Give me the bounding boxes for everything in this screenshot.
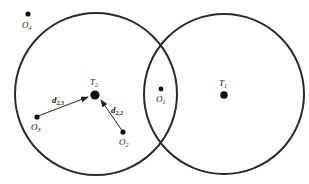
node-dot-t2 xyxy=(90,90,99,99)
node-dot-t1 xyxy=(220,91,228,99)
label-t1: T1 xyxy=(219,78,227,89)
label-o3: O3 xyxy=(31,122,41,133)
label-t2: T2 xyxy=(90,77,98,88)
label-d23: d2,3 xyxy=(52,95,64,106)
node-dot-o2 xyxy=(120,129,125,134)
label-d22: d2,2 xyxy=(111,105,123,116)
node-dot-o3 xyxy=(34,114,39,119)
label-o2: O2 xyxy=(119,137,129,148)
node-dot-o1 xyxy=(159,87,164,92)
node-dot-o4 xyxy=(25,11,30,16)
label-o1: O1 xyxy=(156,94,166,105)
diagram-canvas: O4 T2 O3 O2 O1 T1 d2,3 d2,2 xyxy=(0,0,309,184)
diagram-svg: O4 T2 O3 O2 O1 T1 d2,3 d2,2 xyxy=(0,0,309,184)
label-o4: O4 xyxy=(22,20,32,31)
